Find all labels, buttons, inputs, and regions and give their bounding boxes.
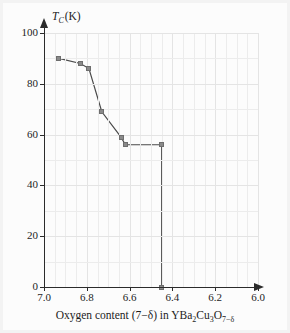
plot-area — [44, 33, 258, 287]
y-axis-title-unit: (K) — [65, 10, 81, 22]
data-point-marker — [78, 61, 83, 66]
data-point-marker — [123, 142, 128, 147]
x-tick-label: 7.0 — [24, 291, 64, 303]
gridline-horizontal — [44, 58, 258, 59]
gridline-horizontal — [44, 236, 258, 237]
y-tick-label: 60 — [27, 129, 38, 140]
y-tick-label: 80 — [27, 78, 38, 89]
x-tick-label: 6.6 — [110, 291, 150, 303]
y-tick-mark — [40, 84, 44, 85]
gridline-vertical — [258, 33, 259, 287]
y-axis-title-subscript: C — [58, 16, 63, 25]
data-point-marker — [99, 109, 104, 114]
y-axis-title: TC (K) — [52, 10, 81, 25]
data-point-marker — [119, 135, 124, 140]
data-point-marker — [159, 142, 164, 147]
x-tick-label: 6.2 — [195, 291, 235, 303]
x-tick-label: 6.8 — [67, 291, 107, 303]
x-tick-label: 6.0 — [238, 291, 278, 303]
y-tick-label: 20 — [27, 230, 38, 241]
y-tick-mark — [40, 135, 44, 136]
gridline-horizontal — [44, 109, 258, 110]
x-axis-arrowhead — [254, 283, 264, 291]
y-tick-label: 40 — [27, 179, 38, 190]
x-axis-title-o: O — [214, 309, 222, 321]
data-point-marker — [56, 56, 61, 61]
x-axis-title-sub-o: 7−δ — [222, 315, 234, 324]
y-axis-line — [44, 26, 45, 287]
y-tick-mark — [40, 236, 44, 237]
gridline-horizontal — [44, 160, 258, 161]
y-axis-arrowhead — [40, 18, 48, 28]
y-tick-label: 100 — [22, 27, 39, 38]
x-tick-label: 6.4 — [152, 291, 192, 303]
gridline-horizontal — [44, 33, 258, 34]
gridline-horizontal — [44, 84, 258, 85]
gridline-horizontal — [44, 211, 258, 212]
y-tick-mark — [40, 33, 44, 34]
gridline-horizontal — [44, 262, 258, 263]
x-axis-title-prefix: Oxygen content (7−δ) in YBa — [56, 309, 193, 321]
x-axis-title-cu: Cu — [196, 309, 209, 321]
data-point-marker — [86, 66, 91, 71]
y-tick-mark — [40, 185, 44, 186]
gridline-horizontal — [44, 185, 258, 186]
figure-container: TC (K) Oxygen content (7−δ) in YBa2Cu3O7… — [0, 0, 290, 333]
x-axis-title: Oxygen content (7−δ) in YBa2Cu3O7−δ — [0, 309, 290, 324]
gridline-horizontal — [44, 135, 258, 136]
x-axis-line — [44, 287, 256, 288]
